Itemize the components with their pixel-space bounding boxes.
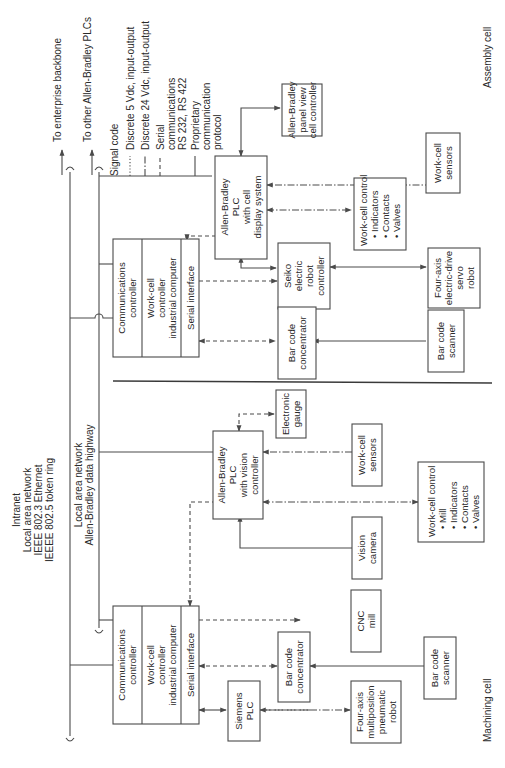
electronic-gauge-label: gauge [291,401,302,428]
intranet-label: IntranetLocal area networkIEEE 802.3 Eth… [11,458,55,562]
ab-panel-view-label: Allen-Bradley [286,81,297,138]
signal-code-legend: Signal code Discrete 5 Vdc, input-output… [109,21,223,176]
highway-label: Local area networkAllen-Bradley data hig… [73,424,95,545]
intranet-label: IEEEE 802.5 token ring [44,458,55,562]
ab-plc-cell-display-label: PLC [230,198,241,217]
work-cell-control-label: • Contacts [459,485,470,529]
work-cell-controller-label: controller [156,644,167,684]
machining-cell-label: Machining cell [482,679,493,742]
work-cell-control-label: • Indicators [448,481,459,529]
cell-network-diagram: To enterprise backbone To other Allen-Br… [0,0,505,768]
work-cell-control-label: • Valves [391,204,402,238]
pneumatic-robot-label: multiposition [365,685,376,738]
work-cell-sensors-label: Work-cell [356,435,367,475]
seiko-robot-controller-label: Seiko [282,264,293,288]
svg-text:To other Allen-Bradley PLCs: To other Allen-Bradley PLCs [82,17,93,142]
communications-controller-label: Communications [116,262,127,334]
machining-cell: CommunicationscontrollerWork-cellcontrol… [70,390,484,743]
bar-code-scanner-label: scanner [446,323,457,358]
data-highway-bus [92,150,103,633]
intranet-label: Local area network [22,467,33,552]
communications-controller-label: controller [127,277,138,317]
intranet-label: Intranet [11,493,22,527]
ab-plc-vision-label: with vision [238,453,249,498]
ab-plc-cell-display-label: display system [252,176,263,239]
communications-controller-label: Communications [116,629,127,701]
electronic-gauge-label: Electronic [280,393,291,435]
seiko-robot-controller-label: controller [315,255,326,295]
cnc-mill-label: CNC [355,611,366,632]
cnc-mill-label: mill [366,614,377,628]
ab-plc-cell-display-label: with cell [241,190,252,225]
work-cell-controller-label: industrial computer [167,624,178,706]
ab-plc-vision-label: controller [249,454,260,494]
servo-robot-label: Four-axis [432,258,443,298]
cell-divider [113,381,492,383]
work-cell-control-label: Work-cell control [426,466,437,537]
work-cell-controller-label: controller [156,277,167,317]
pneumatic-robot-label: pneumatic [376,690,387,734]
communications-controller-label: controller [127,644,138,684]
serial-interface-label: Serial interface [185,633,196,697]
work-cell-control-label: • Contacts [380,194,391,238]
highway-up-label: To other Allen-Bradley PLCs [82,17,93,142]
bar-code-scanner-label: Bar code [429,649,440,687]
legend-item-label: Serial [155,124,166,150]
work-cell-control-label: Work-cell control [358,175,369,246]
work-cell-sensors-label: Work-cell [432,143,443,183]
siemens-plc-label: Siemens [233,692,244,730]
legend-item-label: RS 232, RS 422 [177,77,188,150]
seiko-robot-controller-label: robot [304,265,315,287]
work-cell-controller-label: Work-cell [145,645,156,685]
legend-item-label: Discrete 5 Vdc, input-output [125,26,136,150]
svg-text:Signal code: Signal code [109,123,120,176]
work-cell-control-label: • Indicators [369,190,380,238]
comm-computer-assembly: CommunicationscontrollerWork-cellcontrol… [113,239,199,357]
assembly-cell-label: Assembly cell [482,27,493,88]
work-cell-controller-label: industrial computer [167,257,178,339]
ab-plc-cell-display-label: Allen-Bradley [219,178,230,235]
ab-plc-vision-label: Allen-Bradley [216,446,227,503]
legend-item-label: Proprietary [190,101,201,150]
siemens-plc-label: PLC [244,702,255,721]
data-highway-label: Local area network [73,442,84,527]
servo-robot-label: servo [454,266,465,289]
bar-code-concentrator-label: concentrator [297,316,308,370]
serial-interface-label: Serial interface [185,266,196,330]
bar-code-concentrator-label: Bar code [286,324,297,362]
seiko-robot-controller-label: electric [293,261,304,292]
work-cell-sensors-label: sensors [443,146,454,180]
ab-plc-vision-label: PLC [227,466,238,485]
vision-camera-label: Vision [356,535,367,561]
ab-panel-view-label: panel view [297,87,308,132]
pneumatic-robot-label: Four-axis [354,692,365,732]
work-cell-sensors-label: sensors [367,438,378,472]
legend-item-label: communication [201,83,212,150]
svg-text:To enterprise backbone: To enterprise backbone [52,38,63,142]
servo-robot-label: electric-drive [443,251,454,305]
bar-code-scanner-label: scanner [440,650,451,685]
data-highway-label: Allen-Bradley data highway [84,424,95,545]
intranet-up-label: To enterprise backbone [52,38,63,142]
legend-item-label: Discrete 24 Vdc, input-output [140,21,151,150]
comm-computer-machining: CommunicationscontrollerWork-cellcontrol… [113,606,199,724]
intranet-label: IEEE 802.3 Ethernet [33,464,44,555]
vision-camera-label: camera [367,531,378,564]
ab-panel-view-label: cell controller [307,81,318,138]
bar-code-concentrator-label: concentrator [294,640,305,694]
work-cell-control-label: • Mill [437,509,448,529]
bar-code-concentrator-label: Bar code [283,648,294,686]
work-cell-control-label: • Valves [470,495,481,529]
work-cell-controller-label: Work-cell [145,278,156,318]
bar-code-scanner-label: Bar code [435,322,446,360]
pneumatic-robot-label: robot [387,701,398,723]
legend-item-label: protocol [212,114,223,150]
legend-item-label: communications [166,78,177,150]
servo-robot-label: robot [465,267,476,289]
